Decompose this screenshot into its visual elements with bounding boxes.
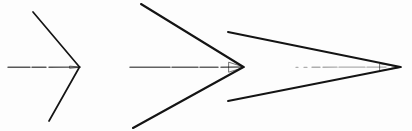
figure-canvas: Three hand-drawn arrows of increasing si… <box>0 0 412 131</box>
paper-background <box>0 0 412 131</box>
arrow-figure-svg <box>0 0 412 131</box>
